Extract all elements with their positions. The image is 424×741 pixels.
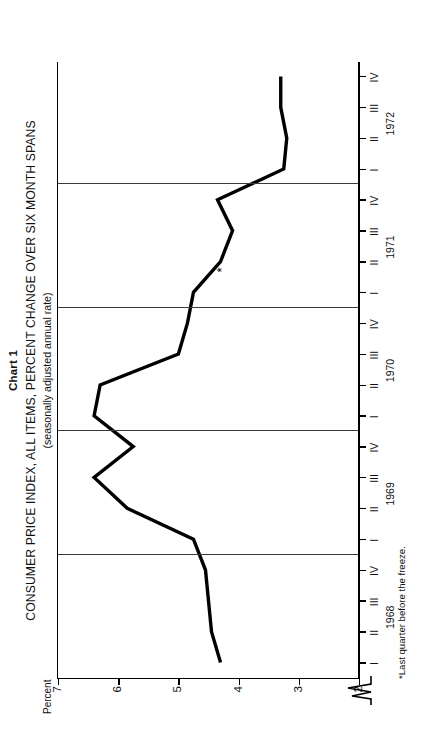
x-axis-quarter-label: IV [368,72,380,82]
year-separator-gridline [58,307,358,308]
x-axis-tick [358,446,366,447]
x-axis-tick [358,199,366,200]
x-axis-year-label: 1971 [384,235,396,258]
x-axis-quarter-label: II [368,630,380,636]
x-axis: IIIIIIIVIIIIIIIVIIIIIIIVIIIIIIIVIIIIIIIV… [358,62,418,679]
x-axis-quarter-label: I [368,292,380,295]
x-axis-quarter-label: IV [368,443,380,453]
y-axis-tick [239,678,240,685]
x-axis-tick [358,415,366,416]
x-axis-tick [358,107,366,108]
axis-break-icon [344,673,374,707]
x-axis-quarter-label: II [368,260,380,266]
year-separator-gridline [58,430,358,431]
x-axis-quarter-label: II [368,136,380,142]
x-axis-quarter-label: I [368,415,380,418]
x-axis-quarter-label: III [368,351,380,360]
y-axis-tick [178,678,179,685]
y-axis-tick [118,678,119,685]
x-axis-tick [358,570,366,571]
y-axis-tick-label: 7 [52,686,64,712]
x-axis-tick [358,323,366,324]
freeze-annotation-asterisk: * [214,267,229,272]
x-axis-quarter-label: III [368,597,380,606]
y-axis-tick [299,678,300,685]
y-axis-tick-label: 3 [293,686,305,712]
x-axis-year-label: 1970 [384,359,396,382]
x-axis-tick [358,600,366,601]
y-axis-tick-label: 6 [112,686,124,712]
x-axis-tick [358,230,366,231]
y-axis-tick-label: 5 [172,686,184,712]
year-separator-gridline [58,554,358,555]
plot-area: Percent * 765432 [57,62,358,679]
cpi-line-series: * [58,61,359,678]
x-axis-tick [358,169,366,170]
y-axis-tick [58,678,59,685]
x-axis-tick [358,138,366,139]
x-axis-quarter-label: I [368,169,380,172]
x-axis-tick [358,385,366,386]
chart-footnote: *Last quarter before the freeze. [396,546,407,679]
chart-figure: Chart 1 CONSUMER PRICE INDEX, ALL ITEMS,… [0,0,424,741]
x-axis-year-label: 1969 [384,482,396,505]
x-axis-tick [358,76,366,77]
x-axis-tick [358,539,366,540]
x-axis-quarter-label: IV [368,196,380,206]
x-axis-quarter-label: III [368,104,380,113]
x-axis-quarter-label: I [368,539,380,542]
x-axis-quarter-label: III [368,227,380,236]
year-separator-gridline [58,183,358,184]
x-axis-quarter-label: I [368,662,380,665]
chart-number: Chart 1 [7,0,19,741]
x-axis-quarter-label: IV [368,319,380,329]
x-axis-year-label: 1968 [384,606,396,629]
x-axis-quarter-label: III [368,474,380,483]
x-axis-quarter-label: II [368,506,380,512]
x-axis-tick [358,662,366,663]
y-axis-tick-label: 4 [233,686,245,712]
chart-title-block: Chart 1 CONSUMER PRICE INDEX, ALL ITEMS,… [0,0,53,741]
x-axis-tick [358,261,366,262]
x-axis-tick [358,292,366,293]
page-title: CONSUMER PRICE INDEX, ALL ITEMS, PERCENT… [24,0,38,741]
x-axis-tick [358,631,366,632]
x-axis-quarter-label: II [368,383,380,389]
x-axis-quarter-label: IV [368,566,380,576]
x-axis-tick [358,354,366,355]
x-axis-year-label: 1972 [384,112,396,135]
chart-subtitle: (seasonally adjusted annual rate) [41,0,53,741]
x-axis-tick [358,508,366,509]
x-axis-tick [358,477,366,478]
